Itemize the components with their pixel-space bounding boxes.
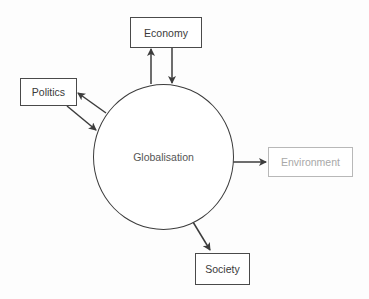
edge-politics-to-globalisation <box>67 106 96 130</box>
edge-globalisation-to-society <box>193 222 210 250</box>
node-society[interactable]: Society <box>195 253 250 285</box>
hub-globalisation[interactable]: Globalisation <box>93 84 234 230</box>
node-politics-label: Politics <box>32 86 65 98</box>
edge-globalisation-to-politics <box>78 93 106 113</box>
node-economy-label: Economy <box>144 27 188 39</box>
hub-label: Globalisation <box>133 151 194 163</box>
node-environment-label: Environment <box>281 156 340 168</box>
diagram-canvas: Globalisation Economy Politics Environme… <box>0 0 369 299</box>
node-politics[interactable]: Politics <box>20 78 77 106</box>
node-economy[interactable]: Economy <box>130 17 202 48</box>
node-society-label: Society <box>205 263 239 275</box>
node-environment[interactable]: Environment <box>268 147 353 177</box>
